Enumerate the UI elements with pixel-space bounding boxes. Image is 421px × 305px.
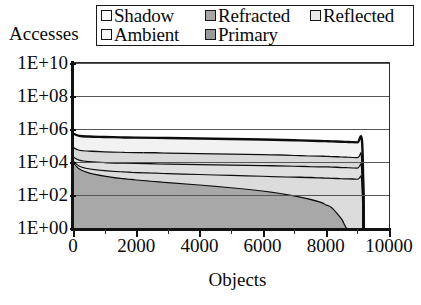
legend-swatch-refracted-icon <box>205 10 216 21</box>
y-axis-tick-mark <box>70 129 76 131</box>
x-axis-tick-mark <box>263 229 265 237</box>
x-axis-minor-tick-mark <box>168 229 169 234</box>
x-axis-tick-mark <box>136 229 138 237</box>
legend-item-refracted: Refracted <box>205 6 290 25</box>
chart-legend: Shadow Refracted Reflected Ambient Prima… <box>96 5 414 46</box>
y-axis-tick-mark <box>70 63 76 65</box>
y-axis-tick-label: 1E+08 <box>8 86 68 105</box>
legend-item-reflected: Reflected <box>310 6 394 25</box>
x-axis-tick-mark <box>73 229 75 237</box>
y-axis-tick-label: 1E+02 <box>8 185 68 204</box>
gridline <box>73 129 389 130</box>
x-axis-minor-tick-mark <box>357 229 358 234</box>
legend-label-reflected: Reflected <box>323 6 394 25</box>
y-axis-tick-label: 1E+06 <box>8 119 68 138</box>
y-axis-tick-mark <box>70 162 76 164</box>
gridline <box>73 195 389 196</box>
legend-swatch-ambient-icon <box>101 29 112 40</box>
legend-item-primary: Primary <box>205 25 278 44</box>
y-axis-line <box>71 61 74 230</box>
legend-row-2: Ambient Primary <box>97 25 413 45</box>
legend-swatch-primary-icon <box>205 29 216 40</box>
y-axis-tick-label: 1E+00 <box>8 218 68 237</box>
y-axis-tick-label: 1E+10 <box>8 53 68 72</box>
x-axis-tick-label: 2000 <box>117 236 155 255</box>
legend-item-shadow: Shadow <box>101 6 174 25</box>
x-axis-tick-mark <box>199 229 201 237</box>
y-axis-tick-mark <box>70 195 76 197</box>
x-axis-tick-label: 4000 <box>180 236 218 255</box>
x-axis-tick-label: 10000 <box>365 236 413 255</box>
chart-figure: Shadow Refracted Reflected Ambient Prima… <box>0 0 421 305</box>
plot-area <box>72 62 390 229</box>
legend-label-shadow: Shadow <box>114 6 174 25</box>
x-axis-tick-mark <box>326 229 328 237</box>
legend-item-ambient: Ambient <box>101 25 179 44</box>
x-axis-minor-tick-mark <box>231 229 232 234</box>
x-axis-ticks: 0200040006000800010000 <box>0 236 421 262</box>
legend-label-refracted: Refracted <box>218 6 290 25</box>
legend-label-ambient: Ambient <box>114 25 179 44</box>
y-axis-tick-label: 1E+04 <box>8 152 68 171</box>
x-axis-minor-tick-mark <box>294 229 295 234</box>
x-axis-tick-mark <box>389 229 391 237</box>
x-axis-title: Objects <box>0 270 421 289</box>
x-axis-minor-tick-mark <box>105 229 106 234</box>
gridline <box>73 96 389 97</box>
gridline <box>73 162 389 163</box>
gridline <box>73 63 389 64</box>
legend-label-primary: Primary <box>218 25 278 44</box>
legend-swatch-reflected-icon <box>310 10 321 21</box>
y-axis-tick-mark <box>70 96 76 98</box>
legend-row-1: Shadow Refracted Reflected <box>97 6 413 26</box>
x-axis-tick-label: 0 <box>68 236 78 255</box>
series-layer <box>73 63 389 228</box>
x-axis-tick-label: 8000 <box>307 236 345 255</box>
x-axis-tick-label: 6000 <box>244 236 282 255</box>
legend-swatch-shadow-icon <box>101 10 112 21</box>
